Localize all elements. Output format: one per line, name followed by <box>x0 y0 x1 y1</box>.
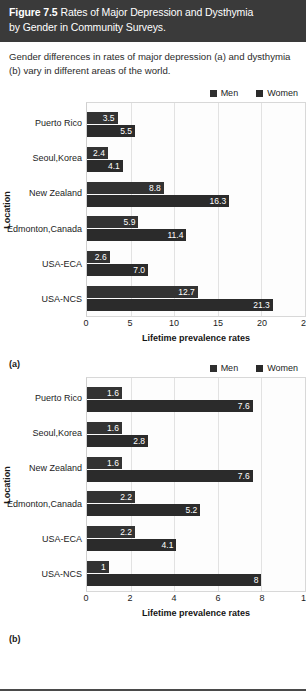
figure-title-line-1: Rates of Major Depression and Dysthymia <box>60 6 253 18</box>
bar-value-label: 21.3 <box>253 300 273 310</box>
chart-panel-a: Men Women Location Puerto RicoSeoul,Kore… <box>0 84 306 343</box>
bar-women: 5.5 <box>87 125 135 137</box>
bar-men: 2.4 <box>87 147 108 159</box>
category-label: Puerto Rico <box>14 106 86 141</box>
bar-rows-a: 3.55.52.44.18.816.35.911.42.67.012.721.3 <box>87 103 305 316</box>
bar-value-label: 7.6 <box>238 471 253 481</box>
bar-rows-b: 1.67.61.62.81.67.62.25.22.24.118 <box>87 378 305 591</box>
bar-men: 12.7 <box>87 286 198 298</box>
bar-value-label: 2.2 <box>120 527 135 537</box>
category-label-line: New Zealand <box>29 188 82 199</box>
bar-women: 4.1 <box>87 160 123 172</box>
x-tick-label: 10 <box>301 593 306 603</box>
bar-value-label: 2.6 <box>95 252 110 262</box>
category-label: USA-NCS <box>14 282 86 317</box>
x-tick-label: 8 <box>259 593 264 603</box>
category-label-line: Seoul, <box>32 428 58 439</box>
bar-women: 7.6 <box>87 400 253 412</box>
x-axis-a: 0510152025 <box>0 317 306 332</box>
bar-value-label: 8 <box>254 575 262 585</box>
plot-canvas-a: 3.55.52.44.18.816.35.911.42.67.012.721.3 <box>86 102 306 317</box>
legend-b: Men Women <box>0 359 306 377</box>
bar-men: 1.6 <box>87 422 122 434</box>
x-tick-label: 6 <box>215 593 220 603</box>
bar-group: 12.721.3 <box>87 281 305 316</box>
legend-swatch-men-icon <box>210 365 217 372</box>
bar-value-label: 2.8 <box>133 436 148 446</box>
bar-value-label: 12.7 <box>178 287 198 297</box>
bar-women: 7.6 <box>87 470 253 482</box>
category-label: New Zealand <box>14 451 86 486</box>
legend-entry-women-b: Women <box>256 363 298 373</box>
bar-women: 21.3 <box>87 299 273 311</box>
bar-group: 2.25.2 <box>87 486 305 521</box>
bar-women: 11.4 <box>87 229 186 241</box>
bar-women: 16.3 <box>87 195 229 207</box>
bar-value-label: 4.1 <box>108 161 123 171</box>
x-axis-spacer-a <box>0 317 86 332</box>
x-tick-label: 25 <box>301 318 306 328</box>
bar-value-label: 8.8 <box>149 183 164 193</box>
y-axis-title-label-b: Location <box>2 466 12 504</box>
legend-label-men: Men <box>221 88 239 98</box>
category-label-line: USA-NCS <box>41 569 82 580</box>
x-axis-title-b: Lifetime prevalence rates <box>86 608 306 618</box>
bar-women: 8 <box>87 574 261 586</box>
category-label: Edmonton,Canada <box>14 212 86 247</box>
category-label-line: Canada <box>50 224 82 235</box>
category-label-line: New Zealand <box>29 463 82 474</box>
bar-value-label: 4.1 <box>162 540 177 550</box>
category-label-line: Puerto Rico <box>35 118 82 129</box>
x-tick-label: 10 <box>169 318 179 328</box>
legend-entry-men-b: Men <box>210 363 239 373</box>
bar-group: 5.911.4 <box>87 211 305 246</box>
legend-swatch-men-icon <box>210 90 217 97</box>
bar-value-label: 2.2 <box>120 492 135 502</box>
bar-value-label: 2.4 <box>93 148 108 158</box>
plot-canvas-b: 1.67.61.62.81.67.62.25.22.24.118 <box>86 377 306 592</box>
bar-value-label: 1 <box>101 562 109 572</box>
bar-value-label: 1.6 <box>107 423 122 433</box>
category-labels-b: Puerto RicoSeoul,KoreaNew ZealandEdmonto… <box>14 377 86 592</box>
bar-group: 8.816.3 <box>87 177 305 212</box>
figure-title-line-2: by Gender in Community Surveys. <box>9 21 166 33</box>
legend-swatch-women-icon <box>256 90 263 97</box>
legend-entry-women-a: Women <box>256 88 298 98</box>
bar-women: 4.1 <box>87 539 176 551</box>
legend-label-men: Men <box>221 363 239 373</box>
bar-men: 2.2 <box>87 526 135 538</box>
legend-swatch-women-icon <box>256 365 263 372</box>
figure-header-line-2: by Gender in Community Surveys. <box>9 20 298 35</box>
category-label: Puerto Rico <box>14 381 86 416</box>
bar-women: 5.2 <box>87 504 200 516</box>
x-axis-b: 0246810 <box>0 592 306 607</box>
category-label: New Zealand <box>14 176 86 211</box>
legend-label-women: Women <box>267 88 298 98</box>
category-label: USA-NCS <box>14 557 86 592</box>
bar-group: 2.44.1 <box>87 142 305 177</box>
y-axis-title-a: Location <box>0 102 14 317</box>
x-axis-spacer-b <box>0 592 86 607</box>
bar-group: 1.67.6 <box>87 382 305 417</box>
category-label-line: USA-NCS <box>41 294 82 305</box>
bar-men: 5.9 <box>87 216 138 228</box>
bar-men: 2.2 <box>87 491 135 503</box>
bar-value-label: 7.6 <box>238 401 253 411</box>
bar-men: 3.5 <box>87 112 118 124</box>
x-tick-labels-b: 0246810 <box>86 592 306 607</box>
bar-value-label: 5.9 <box>124 217 139 227</box>
bar-group: 2.67.0 <box>87 246 305 281</box>
legend-label-women: Women <box>267 363 298 373</box>
bar-men: 2.6 <box>87 251 110 263</box>
chart-panel-b: Men Women Location Puerto RicoSeoul,Kore… <box>0 359 306 618</box>
plot-area-a: Location Puerto RicoSeoul,KoreaNew Zeala… <box>0 102 306 317</box>
category-label: Seoul,Korea <box>14 141 86 176</box>
bar-men: 8.8 <box>87 182 164 194</box>
legend-entry-men-a: Men <box>210 88 239 98</box>
bar-group: 3.55.5 <box>87 107 305 142</box>
category-label-line: USA-ECA <box>42 534 82 545</box>
plot-area-b: Location Puerto RicoSeoul,KoreaNew Zeala… <box>0 377 306 592</box>
bar-value-label: 7.0 <box>133 265 148 275</box>
bar-value-label: 5.2 <box>186 505 201 515</box>
bar-group: 18 <box>87 556 305 591</box>
